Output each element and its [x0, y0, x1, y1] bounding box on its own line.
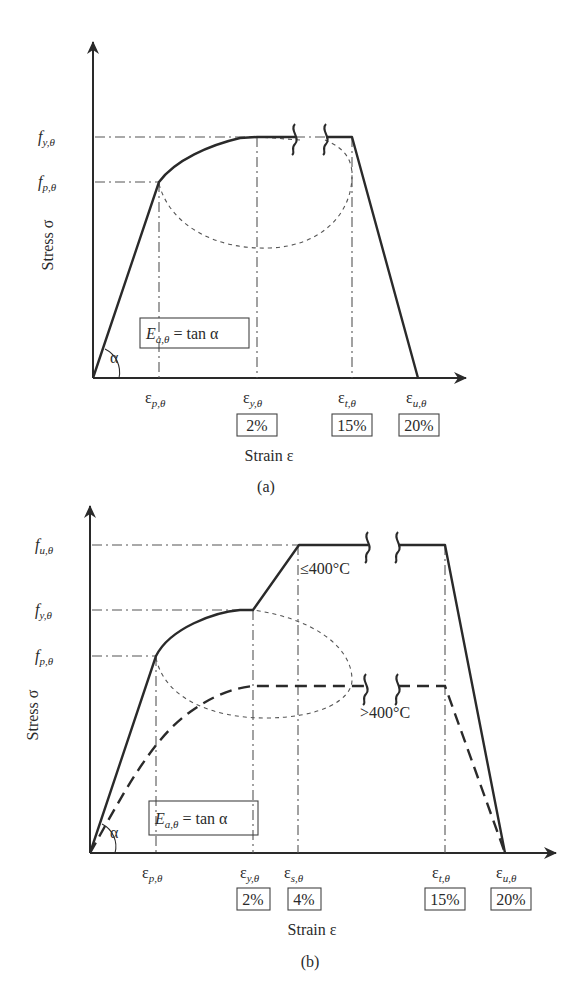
angle-label: α — [110, 824, 119, 841]
tick-label-eu: εu,θ — [496, 864, 517, 884]
angle-label: α — [110, 349, 119, 366]
axis-break-icon — [363, 674, 368, 705]
axis-break-icon — [395, 532, 400, 563]
curve-label-le-400: ≤400°C — [300, 560, 350, 577]
tick-label-ep: εp,θ — [142, 864, 163, 884]
tick-label-eu: εu,θ — [406, 389, 427, 409]
modulus-formula: Ea,θ = tan α — [145, 325, 219, 345]
x-axis-label: Strain ε — [245, 447, 294, 464]
curve-le-400 — [90, 545, 368, 853]
panel-a: α Ea,θ = tan α fy,θ fp,θ Stress σ εp,θ ε… — [38, 42, 466, 496]
value-ey: 2% — [246, 417, 267, 434]
ellipse-guide — [159, 140, 352, 248]
value-ey: 2% — [242, 891, 263, 908]
tick-label-fy: fy,θ — [35, 601, 52, 621]
y-axis-label: Stress σ — [24, 689, 41, 740]
axis-break-icon — [292, 124, 297, 155]
tick-label-ey: εy,θ — [240, 864, 260, 884]
curve-label-gt-400: >400°C — [360, 704, 410, 721]
tick-label-es: εs,θ — [284, 864, 304, 884]
ellipse-guide — [156, 610, 352, 718]
axis-break-icon — [365, 532, 370, 563]
modulus-formula: Ea,θ = tan α — [154, 810, 228, 830]
stress-strain-diagrams: α Ea,θ = tan α fy,θ fp,θ Stress σ εp,θ ε… — [0, 0, 587, 1007]
value-es: 4% — [293, 891, 314, 908]
axis-break-icon — [395, 674, 400, 705]
tick-label-fu: fu,θ — [35, 536, 54, 556]
tick-label-et: εt,θ — [338, 389, 357, 409]
curve-gt-400 — [90, 686, 365, 853]
x-axis-label: Strain ε — [288, 921, 337, 938]
tick-label-ep: εp,θ — [145, 389, 166, 409]
tick-label-ey: εy,θ — [243, 389, 263, 409]
tick-label-et: εt,θ — [432, 864, 451, 884]
axis-break-icon — [323, 124, 328, 155]
y-axis-label: Stress σ — [39, 219, 56, 270]
value-et: 15% — [337, 417, 366, 434]
tick-label-fp: fp,θ — [38, 173, 57, 193]
tick-label-fy: fy,θ — [38, 128, 55, 148]
panel-caption: (a) — [257, 478, 275, 496]
value-et: 15% — [430, 891, 459, 908]
value-eu: 20% — [404, 417, 433, 434]
panel-caption: (b) — [301, 953, 320, 971]
panel-b: ≤400°C >400°C α Ea,θ = tan α fu,θ fy,θ f… — [24, 506, 556, 971]
stress-strain-curve-tail — [326, 137, 418, 378]
tick-label-fp: fp,θ — [35, 647, 54, 667]
value-eu: 20% — [496, 891, 525, 908]
